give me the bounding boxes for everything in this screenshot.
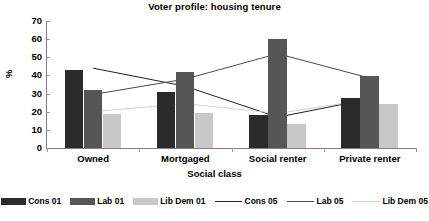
x-axis-category-label: Mortgaged <box>139 153 231 164</box>
legend-label: Cons 05 <box>245 196 278 206</box>
bar-lib-dem-01-owned <box>103 114 122 148</box>
legend-swatch-icon <box>1 198 26 205</box>
bar-lab-01-owned <box>84 90 103 148</box>
legend-item-lib-dem-01[interactable]: Lib Dem 01 <box>133 196 205 206</box>
y-axis-tick-label: 50 <box>20 52 42 61</box>
x-axis-category-label: Social renter <box>232 153 324 164</box>
bar-lab-01-social-renter <box>268 39 287 148</box>
legend-label: Lib Dem 05 <box>383 196 428 206</box>
legend-item-cons-01[interactable]: Cons 01 <box>1 196 61 206</box>
legend-line-icon <box>353 198 380 205</box>
line-lib-dem-05 <box>93 99 370 114</box>
legend-item-lab-01[interactable]: Lab 01 <box>70 196 124 206</box>
y-axis-tick-label: 30 <box>20 89 42 98</box>
plot-area <box>47 21 416 148</box>
chart-legend: Cons 01Lab 01Lib Dem 01Cons 05Lab 05Lib … <box>0 196 429 206</box>
legend-item-lab-05[interactable]: Lab 05 <box>287 196 344 206</box>
legend-swatch-icon <box>70 198 95 205</box>
x-axis-category-label: Private renter <box>324 153 416 164</box>
legend-line-icon <box>215 198 242 205</box>
legend-label: Cons 01 <box>28 196 61 206</box>
y-axis-tick-label: 20 <box>20 107 42 116</box>
legend-swatch-icon <box>133 198 158 205</box>
chart-title: Voter profile: housing tenure <box>0 1 429 12</box>
legend-label: Lab 05 <box>317 196 344 206</box>
y-axis-label: % <box>3 70 14 78</box>
legend-line-icon <box>287 198 314 205</box>
bar-lib-dem-01-mortgaged <box>195 113 214 148</box>
legend-item-lib-dem-05[interactable]: Lib Dem 05 <box>353 196 428 206</box>
bar-lab-01-private-renter <box>360 76 379 148</box>
y-axis-tick-label: 60 <box>20 34 42 43</box>
bar-lib-dem-01-social-renter <box>287 124 306 148</box>
y-axis-tick-label: 10 <box>20 125 42 134</box>
y-axis-tick-label: 40 <box>20 70 42 79</box>
bar-cons-01-private-renter <box>341 98 360 148</box>
x-axis-category-label: Owned <box>47 153 139 164</box>
legend-label: Lab 01 <box>97 196 124 206</box>
bar-lib-dem-01-private-renter <box>379 104 398 148</box>
legend-label: Lib Dem 01 <box>160 196 205 206</box>
y-axis-tick-label: 70 <box>20 16 42 25</box>
legend-item-cons-05[interactable]: Cons 05 <box>215 196 278 206</box>
x-axis-tick-mark <box>324 148 325 152</box>
y-axis-tick-label: 0 <box>20 143 42 152</box>
x-axis-tick-mark <box>47 148 48 152</box>
bar-cons-01-social-renter <box>249 115 268 148</box>
x-axis-label: Social class <box>0 168 429 179</box>
line-cons-05 <box>93 68 370 117</box>
bar-lab-01-mortgaged <box>176 72 195 148</box>
x-axis-tick-mark <box>232 148 233 152</box>
bar-cons-01-owned <box>65 70 84 148</box>
y-axis-tick-labels: 010203040506070 <box>18 0 42 221</box>
bar-cons-01-mortgaged <box>157 92 176 148</box>
x-axis-tick-mark <box>139 148 140 152</box>
line-lab-05 <box>93 54 370 95</box>
x-axis-tick-mark <box>416 148 417 152</box>
chart-container: Voter profile: housing tenure % 01020304… <box>0 0 429 221</box>
